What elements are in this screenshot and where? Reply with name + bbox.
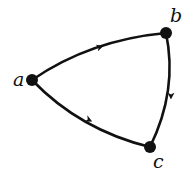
node-b: [160, 27, 172, 39]
edge-a-c: [32, 80, 150, 147]
node-a: [26, 74, 38, 86]
graph-svg: a b c: [0, 0, 190, 177]
edge-b-c: [150, 33, 171, 147]
label-c: c: [153, 150, 164, 172]
label-a: a: [13, 68, 24, 90]
edge-a-b: [32, 33, 166, 80]
label-b: b: [170, 4, 182, 26]
directed-graph-diagram: a b c: [0, 0, 190, 177]
